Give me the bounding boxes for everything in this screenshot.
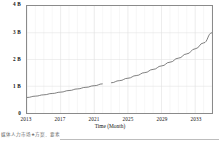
footer: 媒体人力市场★方案．要素 <box>0 132 220 143</box>
x-axis-tick-label: 2013 <box>13 117 39 122</box>
series-line <box>111 33 212 83</box>
x-axis-tick-label: 2021 <box>81 117 107 122</box>
series-line <box>27 84 103 98</box>
x-axis-tick-label: 2033 <box>183 117 209 122</box>
x-axis-tick-label: 2025 <box>115 117 141 122</box>
y-axis-tick-label: 2 B <box>1 57 21 62</box>
x-axis-tick-label: 2029 <box>149 117 175 122</box>
data-series-layer <box>27 6 212 113</box>
y-axis-tick-label: 3 B <box>1 30 21 35</box>
plot-area <box>26 5 213 114</box>
y-axis-tick-label: 0 <box>1 111 21 116</box>
x-axis-title: Time (Month) <box>0 124 220 129</box>
y-axis-tick-label: 1 B <box>1 84 21 89</box>
x-axis-tick-label: 2017 <box>47 117 73 122</box>
footer-divider-rule <box>60 139 219 140</box>
chart-screenshot: 01 B2 B3 B4 B 201320172021202520292033 T… <box>0 0 220 143</box>
y-axis-tick-label: 4 B <box>1 2 21 7</box>
footer-caption-text: 媒体人力市场★方案．要素 <box>1 132 60 137</box>
